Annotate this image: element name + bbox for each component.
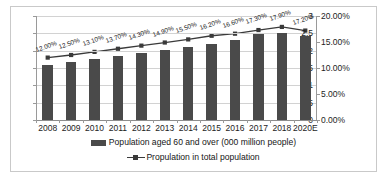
legend-label-line-series: Propulation in total population [146,153,259,162]
data-label: 13.10% [81,34,104,47]
x-axis-tick [200,120,201,123]
x-axis-tick [223,120,224,123]
data-label: 12.50% [58,37,81,50]
x-axis-label: 2013 [155,124,174,133]
y-axis-label-right: 10.00% [321,64,350,73]
data-label: 17.30% [245,12,268,25]
bar [160,50,171,120]
x-axis-label: 2016 [226,124,245,133]
x-axis-label: 2009 [62,124,81,133]
data-label: 16.20% [199,18,222,31]
line-swatch-icon [127,154,145,161]
data-label: 14.30% [128,28,151,41]
y-axis-line [36,16,37,120]
x-axis-label: 2008 [38,124,57,133]
bar-swatch-icon [91,140,106,146]
data-label: 17.90% [269,9,292,22]
x-axis-label: 2014 [179,124,198,133]
y-axis-label-right: 15.00% [321,38,350,47]
bar [113,56,124,120]
bar [230,40,241,120]
gridline [36,103,317,104]
y-axis-label-right: 0.00% [321,116,345,125]
y-axis-label-right: 20.00% [321,12,350,21]
legend-label-bar-series: Population aged 60 and over (000 million… [109,138,296,147]
bar [136,53,147,120]
y2-axis-tick [317,16,320,17]
gridline [36,85,317,86]
legend-item-line-series: Propulation in total population [11,150,376,165]
legend-item-bar-series: Population aged 60 and over (000 million… [11,135,376,150]
data-label: 17.20% [292,13,315,26]
x-axis-tick [270,120,271,123]
bar [66,62,77,120]
x-axis-label: 2012 [132,124,151,133]
x-axis-tick [130,120,131,123]
plot-area: 00.511.522.530.00%5.00%10.00%15.00%20.00… [36,16,317,120]
bar [89,59,100,120]
x-axis-label: 2017 [249,124,268,133]
x-axis-tick [59,120,60,123]
x-axis-tick [106,120,107,123]
bar [253,34,264,120]
data-label: 16.60% [222,16,245,29]
y-axis-label-right: 5.00% [321,90,345,99]
y2-axis-tick [317,68,320,69]
data-label: 14.90% [152,25,175,38]
bar [277,33,288,120]
x-axis-label: 2010 [85,124,104,133]
x-axis-tick [83,120,84,123]
x-axis-tick [247,120,248,123]
chart-legend: Population aged 60 and over (000 million… [11,135,376,165]
x-axis-label: 2015 [202,124,221,133]
x-axis-tick [177,120,178,123]
y2-axis-tick [317,42,320,43]
bar [206,44,217,120]
gridline [36,51,317,52]
chart-container: 00.511.522.530.00%5.00%10.00%15.00%20.00… [10,6,377,172]
x-axis-label: 2011 [109,124,127,133]
bar [300,36,311,120]
bar [183,47,194,120]
y2-axis-line [316,16,317,120]
x-axis-label: 2020E [293,124,318,133]
x-axis-tick [36,120,37,123]
y2-axis-tick [317,94,320,95]
bar [42,65,53,120]
x-axis-tick [153,120,154,123]
x-axis-label: 2018 [272,124,291,133]
gridline [36,68,317,69]
